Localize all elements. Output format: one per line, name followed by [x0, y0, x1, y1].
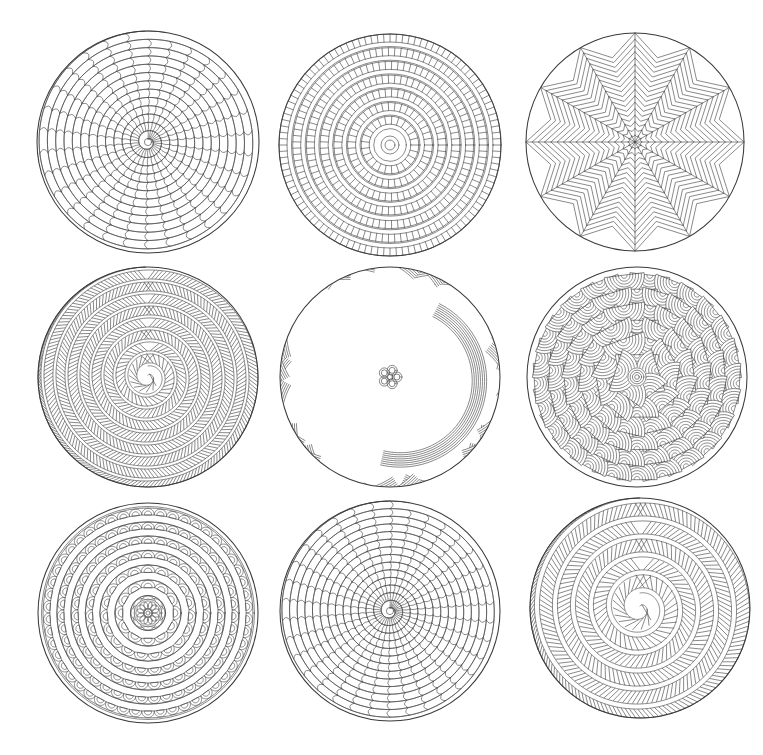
mandala-2: [271, 26, 509, 264]
mandala-3: [518, 25, 752, 259]
mandala-4: [30, 259, 266, 495]
mandala-7: [30, 495, 266, 731]
mandala-9: [522, 490, 758, 726]
mandala-sheet: [0, 0, 763, 755]
mandala-8: [272, 493, 508, 729]
mandala-6: [519, 259, 755, 495]
mandala-5: [272, 259, 508, 495]
mandala-1: [29, 23, 267, 261]
